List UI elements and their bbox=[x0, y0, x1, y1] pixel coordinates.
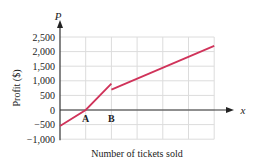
point-label-a: A bbox=[82, 113, 90, 124]
profit-chart: −1,000−50005001,0001,5002,0002,500 AB Pr… bbox=[0, 0, 254, 164]
y-tick-label: 500 bbox=[40, 90, 55, 101]
y-axis-label: Profit ($) bbox=[11, 70, 23, 107]
x-axis-symbol: x bbox=[240, 104, 246, 116]
y-tick-label: 1,000 bbox=[33, 75, 56, 86]
point-label-b: B bbox=[108, 113, 115, 124]
y-tick-label: 1,500 bbox=[33, 61, 56, 72]
y-tick-label: 2,500 bbox=[33, 32, 56, 43]
x-axis-label: Number of tickets sold bbox=[91, 148, 182, 159]
y-tick-label: 2,000 bbox=[33, 46, 56, 57]
y-axis-symbol: P bbox=[54, 10, 62, 22]
y-tick-label: −500 bbox=[34, 119, 55, 130]
y-tick-label: 0 bbox=[50, 105, 55, 116]
y-tick-labels: −1,000−50005001,0001,5002,0002,500 bbox=[27, 32, 55, 145]
x-axis-arrow-icon bbox=[226, 107, 234, 113]
point-labels: AB bbox=[82, 113, 115, 124]
y-tick-label: −1,000 bbox=[27, 134, 55, 145]
